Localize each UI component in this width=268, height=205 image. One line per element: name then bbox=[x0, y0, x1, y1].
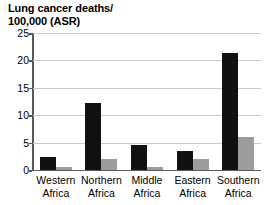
bar-group bbox=[215, 33, 261, 170]
y-axis-tick-label: 15 bbox=[3, 83, 29, 93]
bar bbox=[131, 145, 147, 170]
x-axis-category-label: Western Africa bbox=[33, 174, 79, 200]
bar-group bbox=[170, 33, 216, 170]
bar bbox=[56, 167, 72, 170]
bar bbox=[147, 167, 163, 170]
y-axis-tick-label: 5 bbox=[3, 138, 29, 148]
y-axis-tick-label: 0 bbox=[3, 165, 29, 175]
bar bbox=[101, 159, 117, 171]
y-axis-tick-label: 25 bbox=[3, 28, 29, 38]
bar bbox=[222, 53, 238, 170]
bar-chart: Lung cancer deaths/ 100,000 (ASR) 051015… bbox=[0, 0, 268, 205]
bar bbox=[177, 151, 193, 170]
x-axis-category-label: Southern Africa bbox=[215, 174, 261, 200]
bar-group bbox=[79, 33, 125, 170]
y-axis-tick-label: 10 bbox=[3, 110, 29, 120]
x-axis-category-label: Northern Africa bbox=[79, 174, 125, 200]
x-axis-category-label: Eastern Africa bbox=[170, 174, 216, 200]
bar-group bbox=[124, 33, 170, 170]
plot-area bbox=[33, 33, 261, 170]
x-axis-category-label: Middle Africa bbox=[124, 174, 170, 200]
bar bbox=[85, 103, 101, 170]
y-axis-tick-label: 20 bbox=[3, 55, 29, 65]
y-axis-tick-labels: 0510152025 bbox=[0, 0, 29, 205]
bar bbox=[193, 159, 209, 171]
bar-group bbox=[33, 33, 79, 170]
bar bbox=[238, 137, 254, 170]
bar bbox=[40, 157, 56, 170]
x-axis-category-labels: Western AfricaNorthern AfricaMiddle Afri… bbox=[33, 174, 261, 204]
chart-title: Lung cancer deaths/ 100,000 (ASR) bbox=[8, 2, 258, 28]
